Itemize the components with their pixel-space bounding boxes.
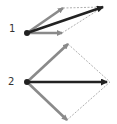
origin-point [24, 30, 30, 36]
resultant-vector-arrow [27, 7, 103, 33]
component-vector-arrow [27, 82, 67, 120]
component-vector-arrow [27, 44, 68, 82]
parallelogram-guide-line [68, 44, 110, 82]
origin-point [24, 79, 30, 85]
vector-diagram-canvas [0, 0, 117, 124]
parallelogram-guide-line [67, 82, 110, 120]
component-vector-arrow [27, 8, 63, 33]
